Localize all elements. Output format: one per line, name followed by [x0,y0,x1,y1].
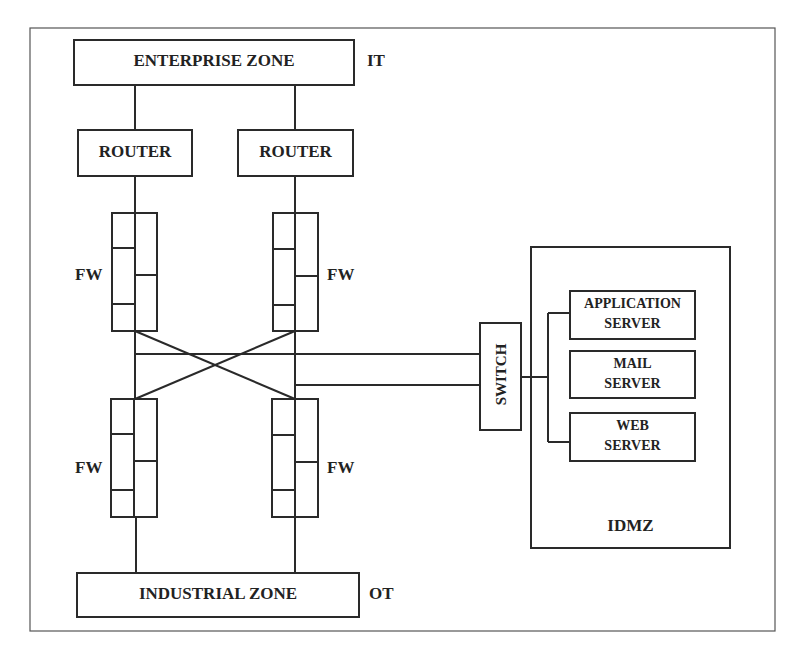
firewall-lower-left [111,399,157,517]
mail-server-line1: MAIL [570,354,695,374]
application-server-line1: APPLICATION [570,294,695,314]
mail-server-line2: SERVER [570,374,695,394]
fw-upper-left-label: FW [75,265,102,285]
firewall-lower-right [272,399,318,517]
idmz-label: IDMZ [531,516,730,536]
firewall-upper-right [273,213,318,331]
mail-server-label: MAIL SERVER [570,354,695,394]
fw-lower-right-label: FW [327,458,354,478]
web-server-line1: WEB [570,416,695,436]
firewall-upper-left [112,213,157,331]
router-right-label: ROUTER [238,142,353,162]
it-tag: IT [367,51,385,71]
ot-tag: OT [369,584,394,604]
enterprise-zone-label: ENTERPRISE ZONE [74,51,354,71]
router-left-label: ROUTER [78,142,192,162]
application-server-label: APPLICATION SERVER [570,294,695,334]
web-server-label: WEB SERVER [570,416,695,456]
application-server-line2: SERVER [570,314,695,334]
industrial-zone-label: INDUSTRIAL ZONE [77,584,359,604]
fw-upper-right-label: FW [327,265,354,285]
web-server-line2: SERVER [570,436,695,456]
switch-label: SWITCH [493,320,510,430]
fw-lower-left-label: FW [75,458,102,478]
